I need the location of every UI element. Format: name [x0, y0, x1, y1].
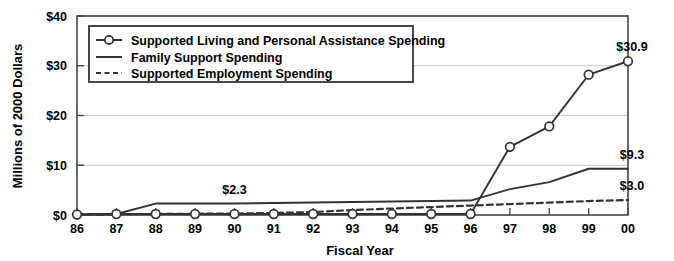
legend-label-supported-living: Supported Living and Personal Assistance… — [131, 34, 445, 48]
x-tick-label: 00 — [621, 222, 635, 236]
data-point-marker — [112, 210, 121, 219]
x-tick-label: 96 — [464, 222, 478, 236]
data-point-marker — [427, 210, 436, 219]
x-tick-label: 93 — [346, 222, 360, 236]
x-tick-label: 97 — [503, 222, 517, 236]
y-axis-title: Millions of 2000 Dollars — [10, 44, 25, 189]
x-tick-label: 94 — [385, 222, 399, 236]
legend: Supported Living and Personal Assistance… — [89, 26, 445, 82]
x-tick-label: 90 — [227, 222, 241, 236]
x-tick-label: 87 — [109, 222, 123, 236]
data-point-marker — [73, 210, 82, 219]
data-point-marker — [151, 210, 160, 219]
data-point-marker — [309, 210, 318, 219]
x-tick-label: 99 — [582, 222, 596, 236]
x-tick-label: 92 — [306, 222, 320, 236]
legend-marker-circle-icon — [105, 36, 113, 44]
data-point-marker — [230, 210, 239, 219]
legend-label-supported-employment: Supported Employment Spending — [131, 67, 332, 81]
y-tick-label: $0 — [53, 209, 67, 223]
data-point-label: $9.3 — [620, 148, 644, 162]
y-tick-label: $30 — [46, 59, 67, 73]
y-tick-label: $20 — [46, 109, 67, 123]
legend-item-supported-employment[interactable]: Supported Employment Spending — [96, 67, 332, 81]
legend-item-supported-living[interactable]: Supported Living and Personal Assistance… — [96, 34, 445, 48]
x-axis-title: Fiscal Year — [326, 243, 394, 258]
data-point-marker — [584, 70, 593, 79]
legend-label-family-support: Family Support Spending — [131, 51, 282, 65]
data-point-label: $3.0 — [620, 179, 644, 193]
data-point-marker — [388, 210, 397, 219]
x-tick-label: 91 — [267, 222, 281, 236]
data-point-marker — [624, 57, 633, 66]
data-point-label: $30.9 — [616, 40, 647, 54]
x-axis-tick-labels: 868788899091929394959697989900 — [70, 222, 635, 236]
data-point-marker — [466, 210, 475, 219]
data-point-marker — [191, 210, 200, 219]
line-chart: $0$10$20$30$40 8687888990919293949596979… — [0, 0, 674, 261]
data-point-marker — [545, 122, 554, 131]
data-point-marker — [269, 210, 278, 219]
x-tick-label: 86 — [70, 222, 84, 236]
data-point-marker — [348, 210, 357, 219]
data-point-marker — [506, 143, 515, 152]
x-tick-label: 89 — [188, 222, 202, 236]
y-tick-label: $40 — [46, 10, 67, 24]
x-tick-label: 88 — [149, 222, 163, 236]
y-tick-label: $10 — [46, 159, 67, 173]
chart-container: $0$10$20$30$40 8687888990919293949596979… — [0, 0, 674, 261]
x-tick-label: 98 — [542, 222, 556, 236]
data-point-label: $2.3 — [222, 183, 246, 197]
x-tick-label: 95 — [424, 222, 438, 236]
